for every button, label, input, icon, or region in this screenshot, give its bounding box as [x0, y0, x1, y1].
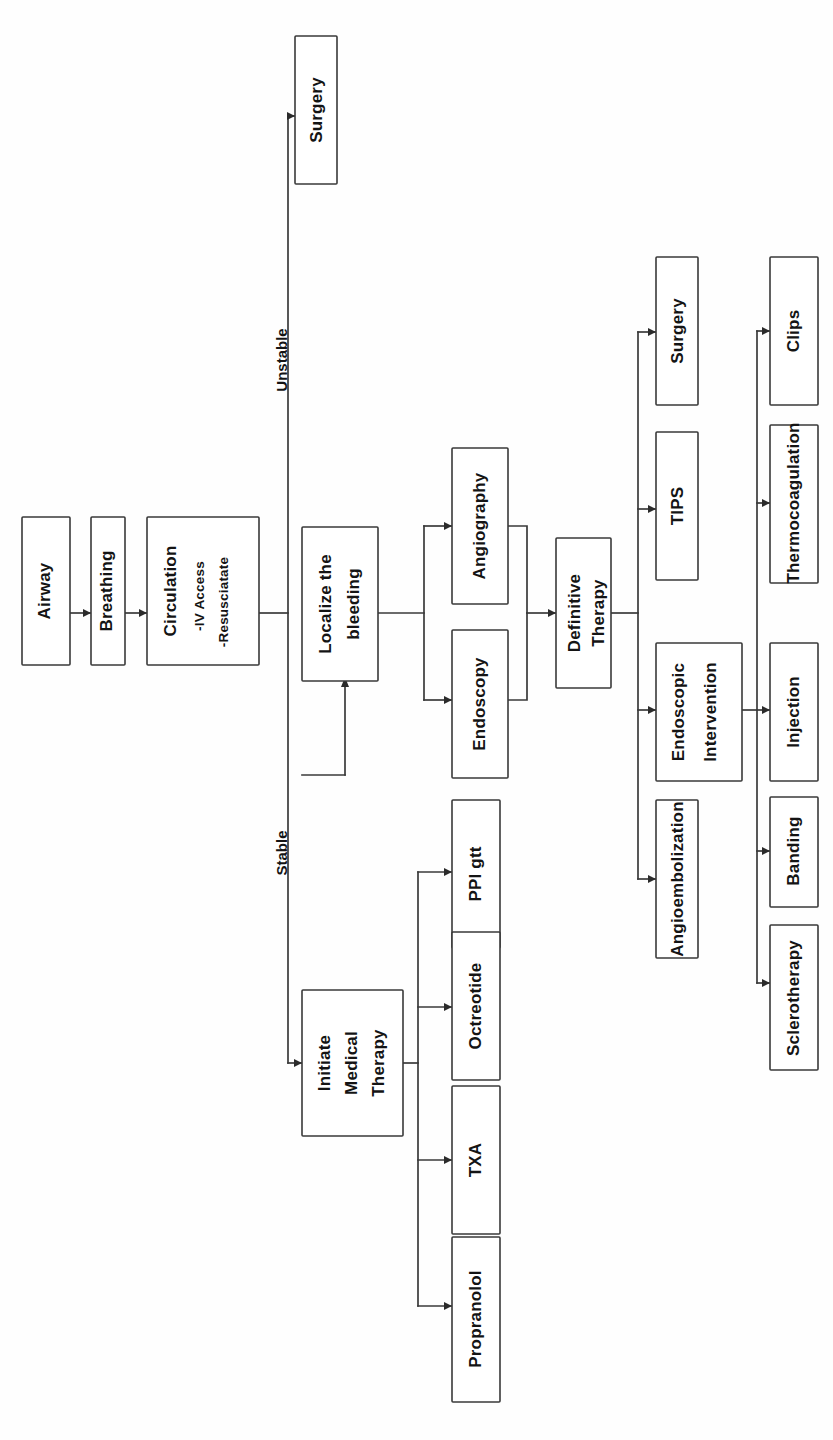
node-endoscopic-line1: Endoscopic — [669, 663, 688, 761]
edge-label-stable: Stable — [273, 830, 290, 875]
arrowhead-octreotide — [444, 1003, 452, 1011]
node-endoscopy[interactable]: Endoscopy — [452, 630, 508, 778]
arrowhead-angiography — [444, 522, 452, 530]
node-breathing-label: Breathing — [97, 550, 116, 631]
node-localize-line2: bleeding — [344, 568, 363, 640]
node-txa[interactable]: TXA — [452, 1086, 500, 1234]
node-angiography-label: Angiography — [470, 472, 489, 579]
arrowhead-txa — [444, 1156, 452, 1164]
arrowhead-tips — [648, 505, 656, 513]
arrowhead-unstable-surgery — [287, 112, 295, 120]
arrowhead-clips — [762, 327, 770, 335]
arrowhead-endoscopy — [444, 696, 452, 704]
arrowhead-sclerotherapy — [762, 979, 770, 987]
node-injection-label: Injection — [784, 676, 803, 748]
edge-endoscopy-merge — [508, 613, 527, 700]
node-medical-line2: Medical — [342, 1031, 361, 1095]
node-airway[interactable]: Airway — [22, 517, 70, 665]
node-ppi-gtt[interactable]: PPI gtt — [452, 800, 500, 948]
node-circulation-label: Circulation — [161, 546, 180, 637]
node-tips[interactable]: TIPS — [656, 432, 698, 580]
node-propranolol-label: Propranolol — [466, 1270, 485, 1368]
arrowhead-stable-medical — [294, 1059, 302, 1067]
arrowhead-definitive — [548, 609, 556, 617]
node-surgery-definitive-label: Surgery — [668, 298, 687, 364]
node-injection[interactable]: Injection — [770, 643, 818, 781]
node-definitive-line2: Therapy — [589, 579, 608, 647]
node-layer: Airway Breathing Circulation -IV Access … — [22, 36, 818, 1402]
node-surgery-unstable-label: Surgery — [307, 77, 326, 143]
node-surgery-definitive[interactable]: Surgery — [656, 257, 698, 405]
node-clips-label: Clips — [784, 310, 803, 353]
node-angioembolization-label: Angioembolization — [668, 801, 687, 956]
edge-angiography-merge — [508, 526, 527, 613]
arrowhead-endoscopic-intervention — [648, 706, 656, 714]
node-surgery-unstable[interactable]: Surgery — [295, 36, 337, 184]
node-circulation[interactable]: Circulation -IV Access -Resusciatate — [147, 517, 259, 665]
node-endoscopy-label: Endoscopy — [470, 657, 489, 751]
node-txa-label: TXA — [466, 1143, 485, 1178]
node-endoscopic-line2: Intervention — [701, 662, 720, 762]
arrowhead-surgery-def — [648, 328, 656, 336]
node-octreotide-label: Octreotide — [466, 962, 485, 1049]
arrowhead-injection — [762, 706, 770, 714]
arrowhead-angioembolization — [648, 875, 656, 883]
node-propranolol[interactable]: Propranolol — [452, 1237, 500, 1402]
node-definitive-therapy[interactable]: Definitive Therapy — [556, 538, 611, 688]
arrowhead-airway-breathing — [83, 609, 91, 617]
node-angioembolization[interactable]: Angioembolization — [656, 800, 698, 958]
arrowhead-banding — [762, 847, 770, 855]
node-definitive-line1: Definitive — [565, 574, 584, 653]
node-clips[interactable]: Clips — [770, 257, 818, 405]
node-circulation-resuscitate: -Resusciatate — [216, 557, 231, 648]
node-thermocoagulation[interactable]: Thermocoagulation — [770, 422, 818, 583]
node-airway-label: Airway — [35, 562, 54, 619]
node-octreotide[interactable]: Octreotide — [452, 932, 500, 1080]
node-thermocoagulation-label: Thermocoagulation — [784, 422, 803, 583]
node-initiate-medical-therapy[interactable]: Initiate Medical Therapy — [302, 990, 403, 1136]
node-sclerotherapy[interactable]: Sclerotherapy — [770, 925, 818, 1070]
flowchart-svg: Unstable Stable Airway Breathing Circula… — [0, 0, 833, 1440]
node-medical-line3: Therapy — [369, 1029, 388, 1097]
edge-label-unstable: Unstable — [273, 328, 290, 391]
arrowhead-breathing-circulation — [139, 609, 147, 617]
node-tips-label: TIPS — [668, 487, 687, 526]
arrowhead-propranolol — [444, 1302, 452, 1310]
node-circulation-iv-access: -IV Access — [192, 561, 207, 631]
node-banding[interactable]: Banding — [770, 797, 818, 907]
node-ppi-label: PPI gtt — [466, 846, 485, 901]
node-sclerotherapy-label: Sclerotherapy — [784, 940, 803, 1056]
node-breathing[interactable]: Breathing — [91, 517, 125, 665]
arrowhead-thermocoagulation — [762, 499, 770, 507]
node-localize-line1: Localize the — [316, 554, 335, 654]
arrowhead-ppi — [444, 868, 452, 876]
node-localize-bleeding[interactable]: Localize the bleeding — [302, 527, 378, 681]
node-banding-label: Banding — [784, 816, 803, 885]
flowchart-canvas: Unstable Stable Airway Breathing Circula… — [0, 0, 833, 1440]
node-angiography[interactable]: Angiography — [452, 448, 508, 604]
node-endoscopic-intervention[interactable]: Endoscopic Intervention — [656, 643, 742, 781]
node-medical-line1: Initiate — [315, 1035, 334, 1091]
